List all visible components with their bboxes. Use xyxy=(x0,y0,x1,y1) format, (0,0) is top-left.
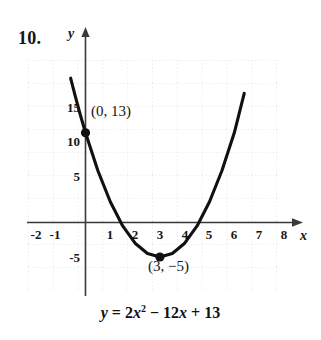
x-tick--1: -1 xyxy=(45,227,65,243)
equation-var-a: x xyxy=(133,304,141,321)
label-vertex: (3, −5) xyxy=(148,258,189,275)
graph-figure: 10. y x -2 -1 1 2 3 4 5 xyxy=(0,0,321,340)
equation-var-b: x xyxy=(179,304,187,321)
equation-caption: y = 2x2 − 12x + 13 xyxy=(0,303,321,322)
x-tick-7: 7 xyxy=(249,227,269,243)
equation-constant: 13 xyxy=(204,304,220,321)
x-tick-5: 5 xyxy=(199,227,219,243)
equation-plus: + xyxy=(191,304,200,321)
y-tick--5: -5 xyxy=(44,250,80,266)
equation-lhs: y xyxy=(101,304,108,321)
y-axis-arrowhead xyxy=(81,27,89,37)
x-tick-2: 2 xyxy=(125,227,145,243)
x-tick-4: 4 xyxy=(175,227,195,243)
label-y-intercept: (0, 13) xyxy=(91,103,131,120)
equation-equals: = xyxy=(112,304,121,321)
equation-exponent: 2 xyxy=(141,303,146,314)
y-tick-10: 10 xyxy=(44,134,80,150)
equation-coef-b: 12 xyxy=(163,304,179,321)
x-tick-3: 3 xyxy=(150,227,170,243)
x-tick-1: 1 xyxy=(100,227,120,243)
y-tick-5: 5 xyxy=(44,169,80,185)
x-tick--2: -2 xyxy=(26,227,46,243)
x-axis-arrowhead xyxy=(292,218,303,227)
y-axis-label: y xyxy=(68,26,74,42)
equation-coef-a: 2 xyxy=(125,304,133,321)
y-tick-15: 15 xyxy=(44,100,80,116)
x-tick-8: 8 xyxy=(274,227,294,243)
point-y-intercept xyxy=(81,128,90,137)
x-tick-6: 6 xyxy=(224,227,244,243)
x-axis-label: x xyxy=(300,228,307,244)
equation-minus: − xyxy=(150,304,159,321)
